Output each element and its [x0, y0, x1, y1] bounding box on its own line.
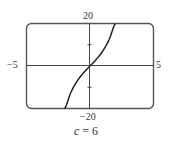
y-max-label: 20	[83, 11, 93, 21]
y-min-label: −20	[80, 112, 96, 122]
x-min-label: −5	[7, 60, 18, 70]
caption-value: 6	[92, 124, 98, 138]
x-max-label: 5	[156, 60, 161, 70]
caption: c = 6	[74, 125, 98, 137]
caption-equals: =	[82, 124, 89, 138]
caption-variable: c	[74, 124, 79, 138]
